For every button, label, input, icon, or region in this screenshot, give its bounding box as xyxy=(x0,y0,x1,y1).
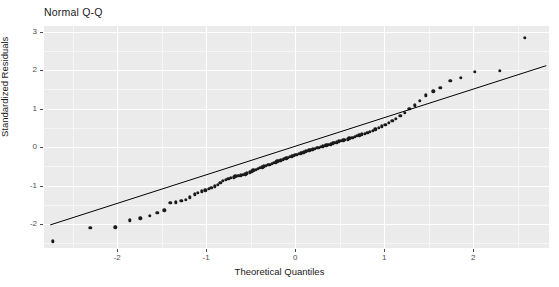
y-tick-mark xyxy=(40,147,43,148)
data-point xyxy=(418,99,421,102)
x-tick-mark xyxy=(384,249,385,252)
data-point xyxy=(188,196,191,199)
grid-line-horizontal-minor xyxy=(44,243,549,244)
data-point xyxy=(403,111,406,114)
grid-line-vertical xyxy=(206,26,207,248)
data-point xyxy=(391,119,394,122)
grid-line-vertical-minor xyxy=(162,26,163,248)
plot-panel xyxy=(44,26,549,248)
data-point xyxy=(424,94,427,97)
y-tick-label: -1 xyxy=(0,181,37,190)
data-point xyxy=(432,90,435,93)
y-tick-label: 3 xyxy=(0,27,37,36)
grid-line-vertical-minor xyxy=(429,26,430,248)
x-tick-mark xyxy=(295,249,296,252)
data-point xyxy=(138,217,141,220)
grid-line-vertical-minor xyxy=(251,26,252,248)
data-point xyxy=(523,36,526,39)
grid-line-vertical xyxy=(117,26,118,248)
grid-line-vertical-minor xyxy=(340,26,341,248)
x-tick-mark xyxy=(206,249,207,252)
x-tick-label: 0 xyxy=(285,253,305,262)
page-title: Normal Q-Q xyxy=(44,6,103,18)
data-point xyxy=(179,199,182,202)
data-point xyxy=(459,76,462,79)
data-point xyxy=(383,123,386,126)
grid-line-horizontal-minor xyxy=(44,128,549,129)
y-axis-label: Standardized Residuals xyxy=(0,37,10,137)
x-axis-label: Theoretical Quantiles xyxy=(0,266,559,277)
grid-line-vertical xyxy=(473,26,474,248)
data-point xyxy=(174,201,177,204)
grid-line-vertical-minor xyxy=(518,26,519,248)
data-point xyxy=(128,219,131,222)
grid-line-horizontal-minor xyxy=(44,205,549,206)
data-point xyxy=(448,79,451,82)
normal-qq-plot: Normal Q-Q Standardized Residuals Theore… xyxy=(0,0,559,287)
y-tick-label: 0 xyxy=(0,142,37,151)
x-tick-mark xyxy=(473,249,474,252)
grid-line-vertical xyxy=(295,26,296,248)
data-point xyxy=(184,198,187,201)
y-tick-mark xyxy=(40,109,43,110)
y-tick-mark xyxy=(40,186,43,187)
grid-line-horizontal-minor xyxy=(44,166,549,167)
y-tick-mark xyxy=(40,32,43,33)
data-point xyxy=(148,214,151,217)
data-point xyxy=(399,114,402,117)
data-point xyxy=(163,209,166,212)
x-tick-label: -1 xyxy=(196,253,216,262)
x-tick-label: -2 xyxy=(107,253,127,262)
y-tick-label: 1 xyxy=(0,104,37,113)
y-tick-label: -2 xyxy=(0,219,37,228)
data-point xyxy=(413,104,416,107)
data-point xyxy=(89,226,92,229)
x-tick-mark xyxy=(117,249,118,252)
data-point xyxy=(387,121,390,124)
data-point xyxy=(394,117,397,120)
y-tick-mark xyxy=(40,70,43,71)
data-point xyxy=(473,70,476,73)
data-point xyxy=(498,69,501,72)
grid-line-horizontal-minor xyxy=(44,51,549,52)
x-tick-label: 1 xyxy=(374,253,394,262)
grid-line-vertical xyxy=(384,26,385,248)
data-point xyxy=(155,211,158,214)
y-tick-mark xyxy=(40,224,43,225)
y-tick-label: 2 xyxy=(0,65,37,74)
grid-line-vertical-minor xyxy=(73,26,74,248)
grid-line-horizontal-minor xyxy=(44,89,549,90)
x-tick-label: 2 xyxy=(463,253,483,262)
data-point xyxy=(407,107,410,110)
